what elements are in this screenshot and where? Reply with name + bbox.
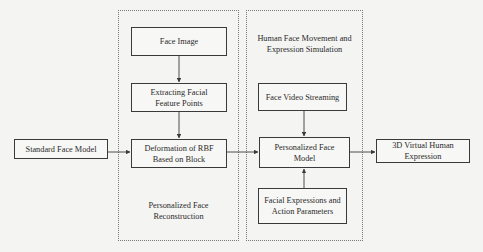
node-face-image: Face Image [131, 27, 227, 56]
group-label-reconstruction: Personalized Face Reconstruction [118, 200, 239, 222]
node-3d-virtual-human-expression: 3D Virtual Human Expression [376, 139, 470, 163]
edges-layer [0, 0, 483, 252]
group-label-simulation: Human Face Movement and Expression Simul… [246, 33, 363, 55]
node-personalized-face-model: Personalized Face Model [259, 137, 350, 168]
node-extracting-feature-points: Extracting Facial Feature Points [131, 83, 227, 112]
node-facial-expressions-parameters: Facial Expressions and Action Parameters [258, 188, 347, 224]
node-face-video-streaming: Face Video Streaming [258, 83, 347, 111]
node-standard-face-model: Standard Face Model [14, 139, 108, 159]
node-deformation-rbf: Deformation of RBF Based on Block [131, 139, 227, 168]
